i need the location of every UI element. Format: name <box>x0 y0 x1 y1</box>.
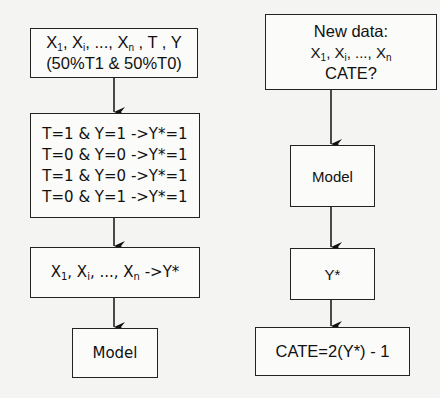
rule-1: T=1 & Y=1 ->Y*=1 <box>42 124 187 145</box>
training-variables: X1, Xi, ..., Xn , T , Y <box>46 32 181 53</box>
train-model-box: Model <box>72 328 158 378</box>
cate-question: CATE? <box>325 63 377 84</box>
model-label: Model <box>312 166 353 187</box>
treatment-split: (50%T1 & 50%T0) <box>46 53 182 74</box>
label-transform-box: T=1 & Y=1 ->Y*=1 T=0 & Y=0 ->Y*=1 T=1 & … <box>30 113 200 218</box>
model-label: Model <box>92 343 137 364</box>
feature-mapping-box: X1, Xi, ..., Xn ->Y* <box>30 247 200 298</box>
rule-3: T=1 & Y=0 ->Y*=1 <box>42 166 187 187</box>
rule-2: T=0 & Y=0 ->Y*=1 <box>42 145 187 166</box>
new-data-title: New data: <box>314 21 388 42</box>
cate-formula-box: CATE=2(Y*) - 1 <box>255 327 410 376</box>
predict-model-box: Model <box>290 145 375 207</box>
new-data-box: New data: X1, Xi, ..., Xn CATE? <box>265 14 437 90</box>
cate-formula: CATE=2(Y*) - 1 <box>276 341 390 362</box>
new-data-variables: X1, Xi, ..., Xn <box>311 42 392 63</box>
training-data-box: X1, Xi, ..., Xn , T , Y (50%T1 & 50%T0) <box>30 28 198 78</box>
rule-4: T=0 & Y=1 ->Y*=1 <box>42 187 187 208</box>
ystar-label: Y* <box>325 264 341 285</box>
ystar-output-box: Y* <box>290 248 375 300</box>
mapping-text: X1, Xi, ..., Xn ->Y* <box>51 262 180 283</box>
